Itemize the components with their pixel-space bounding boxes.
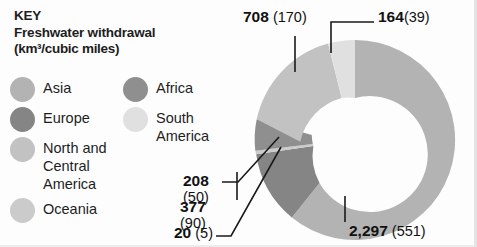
key-units: (km³/cubic miles) xyxy=(14,41,230,58)
circle-swatch-icon xyxy=(10,137,35,162)
callout-south-america: 164(39) xyxy=(378,8,430,26)
callout-oceania: 20 (5) xyxy=(174,224,213,242)
freshwater-withdrawal-figure: KEY Freshwater withdrawal (km³/cubic mil… xyxy=(0,0,477,247)
callout-value-secondary: (50) xyxy=(183,189,209,206)
callout-north-and-central-america: 708 (170) xyxy=(243,8,307,26)
legend-item-asia[interactable]: Asia xyxy=(10,76,130,102)
callout-value-secondary: (170) xyxy=(273,9,307,25)
donut-chart-svg xyxy=(247,22,477,247)
legend-column-left: Asia Europe North and Central America Oc… xyxy=(10,76,130,227)
circle-swatch-icon xyxy=(123,107,148,132)
donut-chart xyxy=(247,22,477,247)
legend-item-africa[interactable]: Africa xyxy=(123,76,235,102)
key-subheading: Freshwater withdrawal xyxy=(14,25,230,42)
legend-column-right: Africa South America xyxy=(123,76,235,149)
legend-item-label: Asia xyxy=(43,76,71,97)
legend-item-oceania[interactable]: Oceania xyxy=(10,197,130,223)
legend-item-label: Oceania xyxy=(43,197,97,218)
circle-swatch-icon xyxy=(10,198,35,223)
callout-value-primary: 708 xyxy=(243,8,269,25)
circle-swatch-icon xyxy=(10,107,35,132)
circle-swatch-icon xyxy=(10,77,35,102)
legend-item-label: Europe xyxy=(43,106,90,127)
circle-swatch-icon xyxy=(123,77,148,102)
legend-item-north-and-central-america[interactable]: North and Central America xyxy=(10,136,130,193)
callout-value-primary: 164 xyxy=(378,8,404,25)
callout-value-primary: 208 xyxy=(183,172,209,189)
legend-item-label: South America xyxy=(156,106,235,145)
callout-asia: 2,297 (551) xyxy=(349,222,426,240)
legend-item-europe[interactable]: Europe xyxy=(10,106,130,132)
legend-item-label: Africa xyxy=(156,76,193,97)
callout-value-secondary: (39) xyxy=(404,9,430,25)
callout-africa: 208 (50) xyxy=(183,172,209,206)
legend-item-label: North and Central America xyxy=(43,136,130,193)
legend-item-south-america[interactable]: South America xyxy=(123,106,235,145)
callout-value-primary: 20 xyxy=(174,224,191,241)
callout-value-secondary: (5) xyxy=(195,225,213,241)
callout-value-primary: 2,297 xyxy=(349,222,388,239)
key-heading-block: KEY Freshwater withdrawal (km³/cubic mil… xyxy=(14,8,230,58)
key-label: KEY xyxy=(14,8,230,25)
callout-value-secondary: (551) xyxy=(392,223,426,239)
